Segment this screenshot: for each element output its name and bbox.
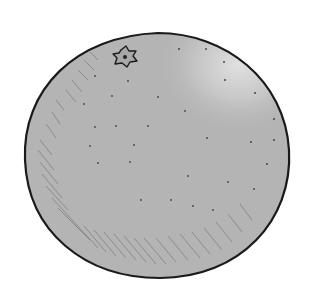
orange-illustration: Grayscale hand-drawn illustration of a r… bbox=[0, 0, 311, 295]
highlight bbox=[110, 20, 300, 180]
